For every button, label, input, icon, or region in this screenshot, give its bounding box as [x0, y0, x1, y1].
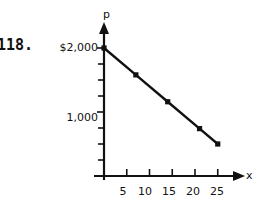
- data-point-14: [165, 99, 170, 104]
- plot-area: [0, 0, 264, 209]
- data-point-7: [133, 72, 138, 77]
- data-point-21: [197, 126, 202, 131]
- data-point-0: [101, 45, 106, 50]
- data-point-25: [215, 141, 220, 146]
- tick-marks: [97, 48, 218, 176]
- figure-canvas: 118. p x $2,000 1,000 5 10 15 20 25: [0, 0, 264, 209]
